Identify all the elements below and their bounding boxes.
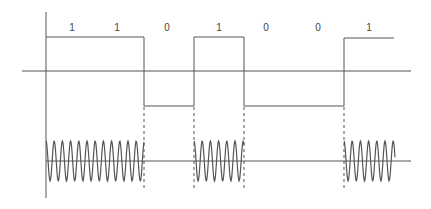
bit-label: 1 — [114, 22, 120, 33]
bit-labels: 1 1 0 1 0 0 1 — [69, 22, 372, 33]
bit-label: 0 — [263, 22, 269, 33]
transition-guides — [144, 107, 344, 191]
bit-label: 0 — [315, 22, 321, 33]
bit-label: 1 — [69, 22, 75, 33]
bit-label: 1 — [216, 22, 222, 33]
ask-modulation-diagram: 1 1 0 1 0 0 1 — [0, 0, 431, 209]
bit-label: 0 — [164, 22, 170, 33]
bit-label: 1 — [366, 22, 372, 33]
